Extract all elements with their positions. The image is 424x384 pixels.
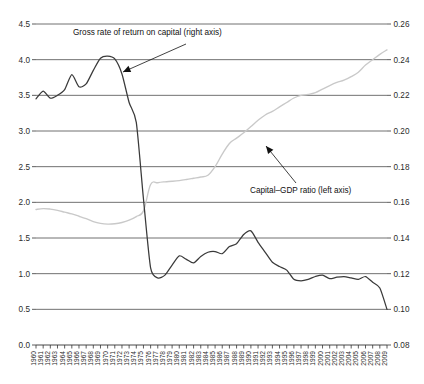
right-axis-tick-label: 0.26 [394,20,410,29]
right-axis-tick-label: 0.08 [394,341,410,350]
x-axis-tick-label: 1990 [245,351,252,366]
left-axis-tick-label: 3.0 [19,127,31,136]
x-axis-tick-label: 1966 [73,351,80,366]
right-axis-tick-label: 0.16 [394,198,410,207]
x-axis-tick-label: 2007 [367,351,374,366]
right-axis-tick-label: 0.12 [394,270,410,279]
left-axis-tick-label: 1.0 [19,270,31,279]
x-axis-tick-label: 2003 [338,351,345,366]
x-axis-tick-label: 2004 [345,351,352,366]
right-axis-tick-label: 0.18 [394,163,410,172]
x-axis-tick-label: 1984 [202,351,209,366]
x-axis-tick-label: 1979 [166,351,173,366]
x-axis-tick-label: 1985 [209,351,216,366]
left-axis-tick-label: 2.5 [19,163,31,172]
x-axis-tick-label: 1998 [302,351,309,366]
gross-return-annotation-arrow-shaft [123,44,186,72]
capital-gdp-ratio-annotation-arrow-head [266,146,273,154]
x-axis-tick-label: 2008 [374,351,381,366]
x-axis-tick-label: 1983 [195,351,202,366]
x-axis-tick-label: 1981 [180,351,187,366]
x-axis-tick-label: 1965 [66,351,73,366]
left-axis-tick-label: 4.5 [19,20,31,29]
x-axis-tick-label: 1975 [137,351,144,366]
x-axis-tick-label: 1988 [231,351,238,366]
x-axis-tick-label: 1992 [259,351,266,366]
left-axis-tick-label: 2.0 [19,198,31,207]
x-axis-tick-label: 1987 [223,351,230,366]
x-axis-tick-label: 1997 [295,351,302,366]
x-axis-tick-label: 1962 [44,351,51,366]
x-axis-tick-label: 1976 [145,351,152,366]
x-axis-tick-label: 1963 [51,351,58,366]
left-axis-tick-label: 0.0 [19,341,31,350]
x-axis-tick-label: 1986 [216,351,223,366]
x-axis-tick-label: 1968 [87,351,94,366]
x-axis-tick-label: 1973 [123,351,130,366]
gross-return-annotation-label: Gross rate of return on capital (right a… [73,28,222,37]
x-axis-tick-label: 1982 [188,351,195,366]
x-axis-tick-label: 1991 [252,351,259,366]
x-axis-tick-label: 1970 [102,351,109,366]
series-gross-return-line [36,56,387,309]
x-axis-tick-label: 1967 [80,351,87,366]
right-axis-tick-label: 0.10 [394,305,410,314]
right-axis-tick-label: 0.22 [394,91,410,100]
right-axis-tick-label: 0.20 [394,127,410,136]
x-axis-tick-label: 1994 [274,351,281,366]
left-axis-tick-label: 4.0 [19,56,31,65]
right-axis-ticks: 0.080.100.120.140.160.180.200.220.240.26 [387,20,410,350]
x-axis-tick-label: 1960 [30,351,37,366]
left-axis-ticks: 0.00.51.01.52.02.53.03.54.04.5 [19,20,36,350]
capital-gdp-ratio-annotation-label: Capital–GDP ratio (left axis) [250,186,352,195]
x-axis-tick-label: 1977 [152,351,159,366]
x-axis-labels: 1960196119621963196419651966196719681969… [30,351,388,366]
left-axis-tick-label: 3.5 [19,91,31,100]
x-axis-tick-label: 2000 [317,351,324,366]
gridlines-group [36,24,387,345]
x-axis-tick-label: 1989 [238,351,245,366]
x-axis-tick-label: 1993 [266,351,273,366]
x-axis-tick-label: 2001 [324,351,331,366]
left-axis-tick-label: 0.5 [19,305,31,314]
right-axis-tick-label: 0.24 [394,56,410,65]
capital-gdp-ratio-line [36,50,387,224]
x-axis-tick-label: 2002 [331,351,338,366]
x-axis-tick-label: 1980 [173,351,180,366]
dual-axis-line-chart: 0.00.51.01.52.02.53.03.54.04.5 0.080.100… [0,0,424,384]
x-axis-tick-label: 1974 [130,351,137,366]
x-axis-tick-label: 1972 [116,351,123,366]
chart-container: 0.00.51.01.52.02.53.03.54.04.5 0.080.100… [0,0,424,384]
x-axis-tick-label: 2009 [381,351,388,366]
left-axis-tick-label: 1.5 [19,234,31,243]
x-axis-tick-label: 1996 [288,351,295,366]
x-axis-tick-label: 2006 [360,351,367,366]
x-axis-tick-label: 1964 [59,351,66,366]
series-capital-gdp-ratio-line [36,50,387,224]
x-axis-tick-label: 1969 [94,351,101,366]
x-axis-ticks [36,345,387,349]
right-axis-tick-label: 0.14 [394,234,410,243]
x-axis-tick-label: 1971 [109,351,116,366]
x-axis-tick-label: 1999 [309,351,316,366]
x-axis-tick-label: 1978 [159,351,166,366]
x-axis-tick-label: 1961 [37,351,44,366]
x-axis-tick-label: 1995 [281,351,288,366]
gross-return-line [36,56,387,309]
x-axis-tick-label: 2005 [352,351,359,366]
